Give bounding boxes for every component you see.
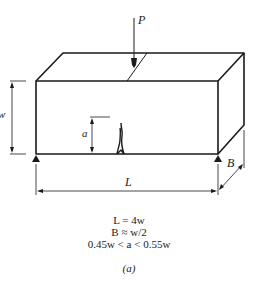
equation-span: L = 4w — [113, 214, 145, 226]
L-arrow-left — [37, 189, 43, 193]
load-arrow-head — [131, 58, 137, 68]
span-label-L: L — [124, 175, 132, 189]
w-arrow-top — [10, 82, 14, 88]
right-support-triangle — [214, 155, 222, 162]
three-point-bend-specimen-diagram: P w a L B L = 4w B ≈ w/2 0.45w < a < 0.5… — [0, 0, 258, 294]
a-arrow-top — [90, 118, 94, 124]
specimen-top-face — [36, 53, 244, 81]
width-label-w: w — [0, 108, 6, 120]
crack-length-label-a: a — [82, 127, 88, 139]
equation-crack-length: 0.45w < a < 0.55w — [88, 238, 171, 250]
L-arrow-right — [211, 189, 217, 193]
load-label-P: P — [137, 13, 146, 27]
left-support-triangle — [32, 155, 40, 162]
specimen-front-face — [36, 81, 218, 154]
notch-line-top — [127, 53, 147, 81]
figure-caption: (a) — [123, 262, 136, 275]
w-arrow-bottom — [10, 147, 14, 153]
crack — [117, 123, 124, 154]
equation-thickness: B ≈ w/2 — [111, 226, 146, 238]
a-arrow-bottom — [90, 147, 94, 153]
thickness-label-B: B — [227, 156, 235, 170]
